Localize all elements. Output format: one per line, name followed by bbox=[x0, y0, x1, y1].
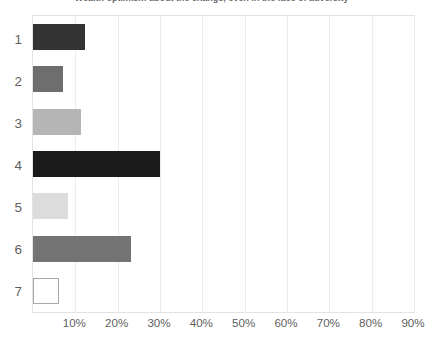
y-axis-tick-label: 1 bbox=[0, 18, 30, 60]
bar-row bbox=[33, 58, 414, 100]
bar-row bbox=[33, 101, 414, 143]
bar-series bbox=[33, 16, 414, 312]
bar[interactable] bbox=[33, 278, 59, 304]
bar[interactable] bbox=[33, 66, 63, 92]
x-axis-tick-label: 70% bbox=[317, 316, 340, 329]
x-axis-tick-label: 60% bbox=[274, 316, 297, 329]
x-axis: 10%20%30%40%50%60%70%80%90% bbox=[32, 316, 415, 336]
x-axis-tick-label: 40% bbox=[190, 316, 213, 329]
bar[interactable] bbox=[33, 109, 81, 135]
chart-title: Wealth optimism about the change, even i… bbox=[0, 0, 423, 7]
plot-area bbox=[32, 15, 415, 313]
bar-row bbox=[33, 227, 414, 269]
y-axis: 1 2 3 4 5 6 7 bbox=[0, 18, 30, 313]
bar[interactable] bbox=[33, 193, 68, 219]
y-axis-tick-label: 3 bbox=[0, 102, 30, 144]
bar-row bbox=[33, 270, 414, 312]
bar[interactable] bbox=[33, 151, 160, 177]
x-axis-tick-label: 20% bbox=[105, 316, 128, 329]
x-axis-tick-label: 30% bbox=[147, 316, 170, 329]
bar-row bbox=[33, 185, 414, 227]
gridline bbox=[414, 16, 415, 312]
x-axis-tick-label: 90% bbox=[401, 316, 424, 329]
x-axis-tick-label: 80% bbox=[359, 316, 382, 329]
x-axis-tick-label: 10% bbox=[63, 316, 86, 329]
y-axis-tick-label: 7 bbox=[0, 271, 30, 313]
y-axis-tick-label: 6 bbox=[0, 229, 30, 271]
bar-row bbox=[33, 143, 414, 185]
y-axis-tick-label: 5 bbox=[0, 187, 30, 229]
y-axis-tick-label: 2 bbox=[0, 60, 30, 102]
bar[interactable] bbox=[33, 236, 131, 262]
bar-row bbox=[33, 16, 414, 58]
y-axis-tick-label: 4 bbox=[0, 144, 30, 186]
bar[interactable] bbox=[33, 24, 85, 50]
x-axis-tick-label: 50% bbox=[232, 316, 255, 329]
